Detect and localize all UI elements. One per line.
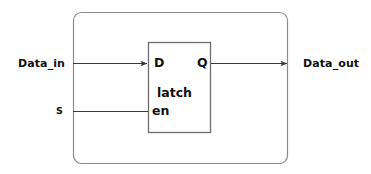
signal-label-data-out: Data_out: [303, 58, 359, 69]
signal-label-data-in: Data_in: [18, 58, 65, 69]
port-label-d: D: [154, 57, 164, 70]
latch-block-label: latch: [157, 87, 192, 100]
port-label-q: Q: [197, 57, 208, 70]
signal-label-s: S: [56, 106, 63, 116]
diagram-canvas: Data_in S Data_out D Q latch en: [0, 0, 371, 174]
port-label-en: en: [152, 105, 169, 118]
